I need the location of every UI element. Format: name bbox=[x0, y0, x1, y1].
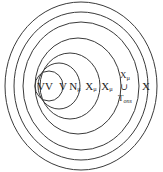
union-operator-icon: ∪ bbox=[120, 82, 128, 92]
ring-outermost bbox=[5, 2, 157, 170]
label-second-denominator-subscript: ons bbox=[124, 98, 133, 104]
label-fifth-subscript: μ bbox=[77, 85, 81, 92]
ring-second bbox=[14, 12, 148, 160]
label-second-numerator-subscript: μ bbox=[127, 74, 131, 81]
label-fifth-base: N bbox=[69, 80, 77, 92]
label-second-stacked-union: Xμ ∪ Tons bbox=[118, 70, 133, 104]
label-fourth: Xμ bbox=[85, 80, 97, 93]
label-third: Xμ bbox=[101, 80, 113, 93]
label-fourth-base: X bbox=[85, 80, 93, 92]
label-third-base: X bbox=[101, 80, 109, 92]
svg-text:Xμ: Xμ bbox=[120, 70, 131, 81]
label-third-subscript: μ bbox=[109, 85, 113, 92]
svg-text:Tons: Tons bbox=[118, 93, 133, 104]
nested-set-diagram: VV V Nμ Xμ Xμ Xμ ∪ Tons X bbox=[0, 0, 163, 172]
label-fourth-subscript: μ bbox=[93, 85, 97, 92]
label-innermost: VV bbox=[37, 80, 53, 92]
svg-text:Xμ: Xμ bbox=[85, 80, 97, 93]
diagram-canvas: VV V Nμ Xμ Xμ Xμ ∪ Tons X bbox=[0, 0, 163, 172]
svg-text:Xμ: Xμ bbox=[101, 80, 113, 93]
label-outermost: X bbox=[142, 80, 150, 92]
label-sixth: V bbox=[59, 80, 67, 92]
